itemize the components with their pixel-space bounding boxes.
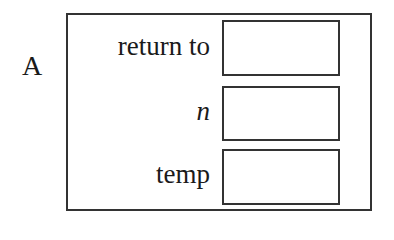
row-label-n: n: [10, 98, 210, 125]
row-label-temp: temp: [10, 161, 210, 188]
cell-temp: [222, 149, 340, 205]
row-label-return-to: return to: [10, 33, 210, 60]
cell-n: [222, 86, 340, 141]
cell-return-to: [222, 20, 340, 76]
